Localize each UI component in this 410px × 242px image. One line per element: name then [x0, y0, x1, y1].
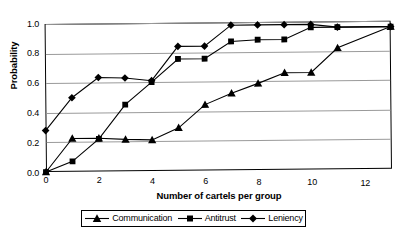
data-point: [175, 56, 181, 62]
data-point: [280, 21, 288, 29]
x-tick-label: 4: [142, 177, 162, 186]
y-tick-label: 0.8: [27, 49, 39, 58]
legend-item-communication: Communication: [84, 213, 172, 224]
legend-marker-square-icon: [177, 213, 203, 224]
data-point: [228, 39, 234, 45]
y-axis: Probability 0.00.20.40.60.81.0: [0, 0, 44, 242]
data-layer: [45, 21, 392, 172]
chart-figure: Probability 0.00.20.40.60.81.0 Number of…: [0, 0, 410, 242]
data-point: [254, 21, 262, 29]
data-point: [96, 136, 102, 142]
legend-marker-diamond-icon: [240, 213, 266, 224]
legend-item-antitrust: Antitrust: [177, 213, 236, 224]
data-point: [333, 44, 341, 52]
data-point: [121, 74, 129, 82]
data-point: [70, 158, 76, 164]
x-tick-label: 8: [249, 178, 269, 187]
y-tick-label: 0.2: [27, 139, 39, 148]
y-tick-label: 1.0: [27, 20, 39, 29]
data-point: [281, 37, 287, 43]
y-tick-label: 0.4: [27, 109, 39, 118]
legend-item-leniency: Leniency: [240, 213, 302, 224]
chart-legend: CommunicationAntitrustLeniency: [81, 210, 306, 227]
data-point: [202, 56, 208, 62]
x-tick-label: 6: [196, 177, 216, 186]
data-point: [227, 89, 235, 97]
data-point: [254, 79, 262, 87]
legend-label: Communication: [112, 214, 172, 223]
data-point: [201, 100, 209, 108]
y-tick-label: 0.6: [27, 79, 39, 88]
x-tick-label: 10: [302, 178, 322, 187]
y-axis-title: Probability: [8, 31, 19, 101]
legend-label: Leniency: [268, 214, 302, 223]
series-leniency: [41, 20, 396, 135]
legend-marker-triangle-icon: [84, 213, 110, 224]
x-tick-label: 12: [355, 179, 375, 188]
x-tick-label: 0: [36, 176, 56, 185]
x-axis-title: Number of cartels per group: [46, 190, 392, 201]
data-point: [255, 37, 261, 43]
series-communication: [40, 22, 396, 175]
legend-label: Antitrust: [205, 214, 236, 223]
data-point: [122, 102, 128, 108]
x-tick-label: 2: [89, 176, 109, 185]
